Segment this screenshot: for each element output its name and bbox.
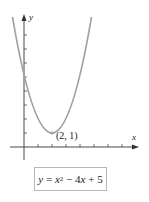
x-axis-arrow-icon — [132, 145, 139, 150]
y-axis-label: y — [28, 12, 33, 22]
y-axis-arrow-icon — [22, 14, 27, 21]
eq-minus-4: − 4 — [63, 173, 80, 185]
eq-equals: = — [43, 173, 55, 185]
x-axis-label: x — [131, 132, 136, 142]
eq-plus-5: + 5 — [85, 173, 102, 185]
vertex-label: (2, 1) — [56, 130, 78, 142]
vertex-point — [50, 131, 53, 134]
equation-box: y = x2 − 4x + 5 — [34, 167, 107, 191]
